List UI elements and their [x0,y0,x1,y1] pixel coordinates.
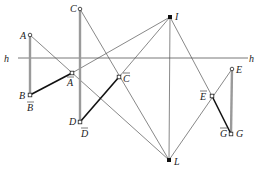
label-L: L [173,156,180,167]
label-D-bar: D [80,128,89,139]
label-E: E [235,64,242,75]
label-G-bar: G [220,128,227,139]
label-G: G [236,128,243,139]
label-h-right: h [249,53,254,64]
label-B-bar: B [27,102,33,113]
label-E-bar: E [199,91,206,102]
geometry-figure: h h A B B A C D D C I L E G E G [0,0,257,170]
label-A-bar: A [66,77,74,88]
label-h-left: h [4,53,9,64]
thick-segments [30,73,231,134]
label-A: A [19,30,27,41]
label-C-bar: C [123,73,130,84]
construction-lines [30,9,232,160]
gray-segments [30,9,232,134]
point-markers [28,7,234,136]
label-B: B [19,90,25,101]
label-C: C [70,3,77,14]
label-D: D [68,116,77,127]
label-I: I [174,11,179,22]
